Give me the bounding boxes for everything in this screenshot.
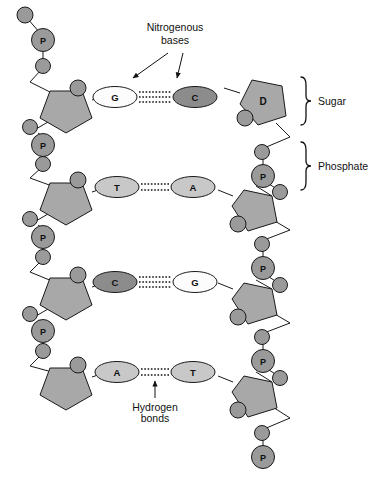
arrow-to-right-base bbox=[177, 53, 183, 78]
base-letter-left: C bbox=[112, 277, 119, 288]
right-sugar-pentagons: D bbox=[218, 80, 286, 418]
phosphate-node-right-2: P bbox=[252, 257, 275, 280]
base-pair-rung-1: G C bbox=[93, 87, 217, 108]
hydrogen-bond-group bbox=[139, 277, 172, 287]
hydrogen-bonds-annotation: Hydrogen bonds bbox=[132, 381, 178, 424]
oxygen-circle bbox=[230, 402, 246, 418]
phosphate-label: P bbox=[40, 36, 46, 46]
base-letter-right: T bbox=[190, 367, 196, 378]
oxygen-circle bbox=[17, 7, 33, 23]
oxygen-circle bbox=[230, 216, 246, 232]
base-pair-rung-3: C G bbox=[93, 272, 217, 293]
nitrogenous-bases-annotation: Nitrogenous bases bbox=[133, 21, 203, 78]
phosphate-label: P bbox=[40, 327, 46, 337]
phosphate-bracket bbox=[301, 142, 311, 190]
base-letter-left: G bbox=[111, 92, 118, 103]
phosphate-label: P bbox=[260, 264, 266, 274]
oxygen-circle bbox=[23, 212, 38, 227]
base-pair-rung-2: T A bbox=[95, 177, 215, 198]
oxygen-circle bbox=[23, 120, 38, 135]
nitrogenous-bases-label-line1: Nitrogenous bbox=[147, 21, 204, 33]
sugar-bracket bbox=[301, 77, 311, 125]
arrow-to-left-base bbox=[133, 53, 168, 78]
sugar-pentagon-right-1: D bbox=[224, 80, 286, 126]
sugar-label: D bbox=[259, 96, 266, 107]
phosphate-node-left-1: P bbox=[32, 29, 55, 52]
base-letter-right: C bbox=[192, 92, 199, 103]
sugar-bracket-annotation: Sugar bbox=[301, 77, 347, 125]
dna-diagram-root: P P P P bbox=[0, 0, 381, 484]
sugar-pentagon-left-1 bbox=[40, 80, 104, 133]
oxygen-circle bbox=[36, 59, 51, 74]
hydrogen-bond-group bbox=[141, 369, 170, 375]
phosphate-label: P bbox=[260, 453, 266, 463]
oxygen-circle bbox=[255, 237, 270, 252]
dna-structure-diagram: P P P P bbox=[0, 0, 381, 484]
sugar-label-text: Sugar bbox=[318, 95, 347, 107]
phosphate-node-right-1: P bbox=[252, 165, 275, 188]
base-letter-right: A bbox=[190, 182, 197, 193]
oxygen-circle bbox=[273, 371, 288, 386]
phosphate-label-text: Phosphate bbox=[318, 160, 368, 172]
oxygen-circle bbox=[255, 426, 270, 441]
sugar-pentagon-right-4 bbox=[218, 376, 277, 418]
base-letter-left: A bbox=[114, 367, 121, 378]
oxygen-circle bbox=[273, 185, 288, 200]
base-pair-rung-4: A T bbox=[95, 362, 215, 383]
phosphate-node-left-4: P bbox=[32, 320, 55, 343]
oxygen-circle bbox=[23, 307, 38, 322]
oxygen-circle bbox=[273, 278, 288, 293]
phosphate-bracket-annotation: Phosphate bbox=[301, 142, 368, 190]
sugar-pentagon-left-4 bbox=[40, 357, 104, 410]
phosphate-label: P bbox=[260, 172, 266, 182]
oxygen-circle bbox=[237, 110, 253, 126]
phosphate-label: P bbox=[260, 357, 266, 367]
oxygen-circle bbox=[36, 344, 51, 359]
oxygen-circle bbox=[70, 172, 86, 188]
phosphate-label: P bbox=[40, 233, 46, 243]
oxygen-circle bbox=[70, 267, 86, 283]
phosphate-node-left-2: P bbox=[32, 134, 55, 157]
base-letter-right: G bbox=[191, 277, 198, 288]
hydrogen-bond-group bbox=[139, 92, 172, 102]
nitrogenous-bases-label-line2: bases bbox=[161, 34, 189, 46]
phosphate-node-right-4: P bbox=[252, 446, 275, 469]
sugar-pentagon-left-2 bbox=[40, 172, 104, 225]
oxygen-circle bbox=[255, 330, 270, 345]
base-letter-left: T bbox=[114, 182, 120, 193]
sugar-pentagon-right-2 bbox=[218, 190, 277, 232]
oxygen-circle bbox=[255, 145, 270, 160]
oxygen-circle bbox=[36, 157, 51, 172]
oxygen-circle bbox=[70, 80, 86, 96]
hydrogen-bond-group bbox=[141, 184, 170, 190]
phosphate-label: P bbox=[40, 141, 46, 151]
phosphate-node-right-3: P bbox=[252, 350, 275, 373]
oxygen-circle bbox=[230, 309, 246, 325]
oxygen-circle bbox=[70, 357, 86, 373]
hydrogen-bonds-label-line2: bonds bbox=[141, 412, 170, 424]
sugar-pentagon-left-3 bbox=[40, 267, 104, 320]
oxygen-circle bbox=[36, 250, 51, 265]
phosphate-node-left-3: P bbox=[32, 226, 55, 249]
sugar-pentagon-right-3 bbox=[218, 283, 277, 325]
